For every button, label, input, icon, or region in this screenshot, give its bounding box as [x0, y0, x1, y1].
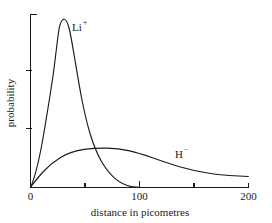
- series-label-h-minus-base: H: [175, 148, 183, 160]
- series-curve-li-plus: [31, 19, 140, 187]
- x-tick-label-100: 100: [131, 190, 148, 202]
- series-label-li-plus: Li +: [72, 18, 87, 33]
- series-label-li-plus-charge: +: [83, 18, 87, 27]
- chart-canvas: 0 100 200 distance in picometres probabi…: [0, 0, 272, 223]
- y-axis-title: probability: [4, 78, 16, 127]
- series-label-h-minus-charge: −: [184, 145, 188, 154]
- series-label-li-plus-base: Li: [72, 21, 82, 33]
- x-tick-label-200: 200: [240, 190, 257, 202]
- x-tick-label-0: 0: [28, 190, 34, 202]
- x-axis-title: distance in picometres: [91, 206, 189, 218]
- probability-distance-chart: 0 100 200 distance in picometres probabi…: [0, 0, 272, 223]
- series-label-h-minus: H −: [175, 145, 188, 160]
